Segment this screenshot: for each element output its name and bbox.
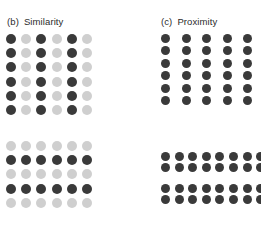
dot-dark bbox=[202, 71, 211, 80]
dot-dark bbox=[36, 105, 46, 115]
panel-tag-similarity: (b) bbox=[7, 16, 19, 27]
dot-dark bbox=[243, 34, 252, 43]
dot-light bbox=[52, 77, 62, 87]
panel-title-proximity: Proximity bbox=[177, 16, 217, 27]
dot-row bbox=[161, 152, 261, 161]
dot-dark bbox=[6, 155, 16, 165]
dot-dark bbox=[202, 96, 211, 105]
dot-dark bbox=[67, 155, 77, 165]
dot-light bbox=[52, 169, 62, 179]
dot-row bbox=[6, 184, 97, 194]
dot-grid-proximity-columns bbox=[161, 34, 261, 108]
dot-dark bbox=[215, 163, 224, 172]
dot-dark bbox=[223, 96, 232, 105]
dot-dark bbox=[161, 34, 170, 43]
panel-tag-proximity: (c) bbox=[161, 16, 172, 27]
panel-title-similarity: Similarity bbox=[24, 16, 64, 27]
dot-dark bbox=[215, 152, 224, 161]
dot-dark bbox=[6, 184, 16, 194]
dot-dark bbox=[243, 152, 252, 161]
dot-row bbox=[161, 184, 261, 193]
dot-dark bbox=[243, 59, 252, 68]
dot-light bbox=[52, 198, 62, 208]
dot-dark bbox=[229, 152, 238, 161]
dot-light bbox=[82, 34, 92, 44]
dot-dark bbox=[36, 155, 46, 165]
dot-dark bbox=[182, 46, 191, 55]
dot-dark bbox=[223, 34, 232, 43]
dot-dark bbox=[215, 195, 224, 204]
dot-dark bbox=[223, 84, 232, 93]
dot-dark bbox=[36, 48, 46, 58]
dot-light bbox=[21, 62, 31, 72]
dot-light bbox=[82, 141, 92, 151]
dot-dark bbox=[161, 59, 170, 68]
dot-dark bbox=[182, 71, 191, 80]
dot-row bbox=[6, 105, 97, 115]
dot-dark bbox=[188, 184, 197, 193]
dot-dark bbox=[229, 163, 238, 172]
dot-light bbox=[67, 141, 77, 151]
dot-row bbox=[6, 91, 97, 101]
dot-dark bbox=[67, 77, 77, 87]
dot-dark bbox=[161, 184, 170, 193]
dot-dark bbox=[188, 195, 197, 204]
dot-dark bbox=[6, 105, 16, 115]
dot-dark bbox=[229, 195, 238, 204]
dot-light bbox=[82, 48, 92, 58]
dot-light bbox=[21, 48, 31, 58]
dot-dark bbox=[202, 59, 211, 68]
dot-light bbox=[67, 198, 77, 208]
dot-dark bbox=[256, 184, 261, 193]
dot-dark bbox=[36, 91, 46, 101]
dot-dark bbox=[256, 152, 261, 161]
dot-dark bbox=[243, 184, 252, 193]
dot-dark bbox=[215, 184, 224, 193]
dot-dark bbox=[243, 163, 252, 172]
dot-light bbox=[21, 77, 31, 87]
dot-dark bbox=[161, 71, 170, 80]
dot-light bbox=[21, 141, 31, 151]
dot-dark bbox=[36, 34, 46, 44]
dot-light bbox=[36, 169, 46, 179]
dot-dark bbox=[202, 34, 211, 43]
panel-label-similarity: (b)Similarity bbox=[7, 16, 63, 27]
dot-light bbox=[82, 77, 92, 87]
dot-light bbox=[82, 105, 92, 115]
dot-dark bbox=[243, 96, 252, 105]
dot-dark bbox=[243, 195, 252, 204]
dot-dark bbox=[21, 184, 31, 194]
dot-dark bbox=[67, 91, 77, 101]
dot-light bbox=[21, 105, 31, 115]
dot-row bbox=[161, 71, 261, 80]
dot-dark bbox=[243, 84, 252, 93]
dot-dark bbox=[223, 59, 232, 68]
dot-dark bbox=[6, 91, 16, 101]
dot-light bbox=[52, 141, 62, 151]
dot-dark bbox=[52, 155, 62, 165]
dot-dark bbox=[229, 184, 238, 193]
dot-row bbox=[161, 34, 261, 43]
dot-dark bbox=[202, 195, 211, 204]
dot-dark bbox=[67, 105, 77, 115]
dot-dark bbox=[67, 62, 77, 72]
cropped-top-row bbox=[0, 0, 261, 7]
dot-light bbox=[6, 141, 16, 151]
dot-dark bbox=[182, 84, 191, 93]
dot-dark bbox=[182, 96, 191, 105]
dot-dark bbox=[36, 77, 46, 87]
dot-dark bbox=[188, 163, 197, 172]
dot-dark bbox=[182, 59, 191, 68]
dot-dark bbox=[6, 34, 16, 44]
dot-row bbox=[161, 195, 261, 204]
dot-row bbox=[6, 77, 97, 87]
dot-light bbox=[36, 198, 46, 208]
dot-light bbox=[21, 91, 31, 101]
dot-dark bbox=[256, 195, 261, 204]
dot-dark bbox=[67, 34, 77, 44]
dot-row bbox=[161, 84, 261, 93]
dot-dark bbox=[161, 163, 170, 172]
dot-dark bbox=[223, 71, 232, 80]
dot-grid-similarity-columns bbox=[6, 34, 97, 119]
dot-dark bbox=[82, 184, 92, 194]
